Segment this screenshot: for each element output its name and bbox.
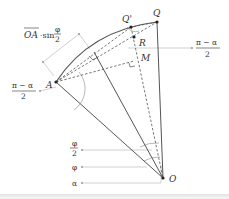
point-Q xyxy=(155,20,158,23)
point-R xyxy=(132,35,135,38)
point-A xyxy=(54,80,57,83)
chord-AQ xyxy=(56,22,157,82)
angle-arc-A xyxy=(74,72,85,110)
angle-label-pi-alpha-right: π − α 2 xyxy=(196,38,220,59)
svg-text:φ: φ xyxy=(72,139,77,148)
leader-dots xyxy=(39,33,193,184)
point-O xyxy=(161,176,164,179)
segment-AM xyxy=(56,61,134,82)
label-A: A xyxy=(45,80,53,90)
segment-O-mid xyxy=(94,52,163,178)
label-R: R xyxy=(138,38,146,48)
chord-AQprime xyxy=(56,27,131,82)
label-O: O xyxy=(169,174,177,184)
svg-text:2: 2 xyxy=(21,92,26,101)
angle-label-phi-half: φ 2 xyxy=(70,139,78,158)
chord-length-label: OA ·sin φ 2 xyxy=(24,25,61,44)
svg-text:2: 2 xyxy=(205,50,210,59)
angle-label-pi-alpha-left: π − α 2 xyxy=(12,81,36,101)
svg-text:2: 2 xyxy=(55,35,60,44)
svg-text:OA: OA xyxy=(24,30,38,40)
label-Q-prime: Q' xyxy=(122,14,132,24)
angle-label-alpha: α xyxy=(72,179,77,188)
point-Q-prime xyxy=(129,25,132,28)
angle-label-phi: φ xyxy=(72,163,77,172)
bottom-divider xyxy=(0,194,229,199)
label-Q: Q xyxy=(153,8,161,18)
svg-text:2: 2 xyxy=(72,149,77,158)
svg-text:π − α: π − α xyxy=(196,38,217,47)
label-M: M xyxy=(140,53,151,63)
svg-text:φ: φ xyxy=(55,25,60,34)
geometry-diagram: Q Q' R M A O OA ·sin φ 2 π − α 2 π − α 2… xyxy=(0,0,229,199)
points xyxy=(54,20,164,179)
helper-lines xyxy=(40,34,192,183)
svg-text:π − α: π − α xyxy=(12,81,33,90)
svg-text:·sin: ·sin xyxy=(40,31,54,40)
right-angle-marks xyxy=(89,56,135,67)
